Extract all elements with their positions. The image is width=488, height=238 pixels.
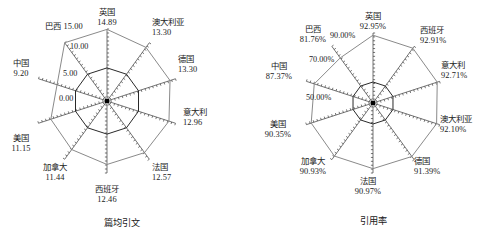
axis-tick-mark: [332, 114, 333, 116]
axis-tick-mark: [69, 87, 70, 89]
axis-tick-mark: [376, 109, 378, 110]
axis-tick-mark: [80, 108, 81, 110]
axis-tick-mark: [134, 140, 136, 141]
axis-tick-mark: [391, 109, 392, 111]
axis-tick-mark: [354, 107, 355, 109]
axis-tick-mark: [336, 89, 337, 91]
axis-tick-mark: [353, 127, 355, 128]
axis-tick-mark: [387, 125, 389, 126]
axis-tick-mark: [324, 117, 325, 119]
axis-tick-mark: [117, 117, 119, 118]
chart-caption-left: 篇均引文: [77, 215, 167, 229]
axis-tick-mark: [129, 133, 131, 134]
axis-tick-mark: [96, 113, 98, 114]
axis-tick-mark: [119, 120, 121, 121]
axis-tick-mark: [408, 153, 410, 154]
axis-tick-mark: [342, 143, 344, 144]
radar-axis-label-value: 92.71%: [441, 71, 467, 81]
axis-tick-mark: [351, 130, 353, 131]
axis-tick-mark: [390, 128, 392, 129]
axis-tick-mark: [432, 122, 433, 124]
axis-tick-mark: [389, 81, 391, 82]
axis-tick-mark: [84, 106, 85, 108]
radar-axis-label-value: 92.10%: [440, 125, 472, 135]
axis-tick-mark: [38, 121, 39, 123]
axis-tick-mark: [414, 90, 415, 92]
axis-tick-mark: [171, 122, 172, 124]
axis-tick-mark: [144, 113, 145, 115]
axis-tick-mark: [91, 77, 93, 78]
axis-tick-mark: [388, 98, 389, 100]
axis-tick-mark: [82, 132, 84, 133]
radar-axis-label: 意大利92.71%: [441, 61, 467, 80]
axis-tick-mark: [131, 69, 133, 70]
axis-tick-mark: [380, 101, 381, 103]
radar-axis-label-name: 西班牙: [420, 26, 446, 36]
radar-axis-label: 西班牙12.46: [67, 185, 147, 204]
axis-tick-mark: [84, 129, 86, 130]
axis-tick-mark: [109, 98, 111, 99]
axis-tick-mark: [367, 108, 369, 109]
axis-tick-mark: [383, 107, 384, 109]
axis-tick-mark: [149, 87, 150, 89]
radar-axis-label-value: 15.00: [64, 22, 83, 31]
axis-tick-mark: [99, 101, 100, 103]
axis-tick-mark: [396, 138, 398, 139]
axis-tick-mark: [145, 49, 147, 50]
axis-tick-mark: [321, 84, 322, 86]
radar-axis-label-name: 美国: [238, 120, 318, 130]
radar-axis-spoke: [373, 103, 440, 125]
radar-center-marker: [105, 99, 109, 103]
axis-tick-mark: [156, 85, 157, 87]
axis-tick-mark: [392, 131, 394, 132]
axis-tick-mark: [380, 94, 382, 95]
axis-tick-mark: [405, 59, 407, 60]
axis-tick-mark: [122, 106, 123, 108]
radial-tick-label: 70.00%: [309, 55, 334, 64]
axis-tick-mark: [355, 77, 357, 78]
axis-tick-mark: [112, 95, 114, 96]
axis-tick-mark: [374, 106, 376, 107]
radar-axis-label-value: 90.93%: [273, 167, 353, 177]
axis-tick-mark: [325, 85, 326, 87]
radial-tick-label: 50.00%: [306, 93, 331, 102]
axis-tick-mark: [428, 85, 429, 87]
axis-tick-mark: [110, 107, 112, 108]
axis-tick-mark: [115, 114, 117, 115]
radar-chart-citation-rate: 英国92.95%西班牙92.91%意大利92.71%澳大利亚92.10%德国91…: [244, 0, 488, 238]
axis-tick-mark: [414, 46, 416, 47]
radar-axis-label-value: 87.37%: [239, 72, 319, 82]
axis-tick-mark: [391, 78, 393, 79]
axis-tick-mark: [72, 51, 74, 52]
axis-tick-mark: [376, 104, 377, 106]
axis-tick-mark: [172, 80, 173, 82]
radar-axis-label-name: 德国: [178, 55, 197, 65]
axis-tick-mark: [371, 99, 373, 100]
axis-tick-mark: [126, 95, 127, 97]
radar-axis-label: 澳大利亚13.30: [152, 18, 184, 37]
radar-axis-label-value: 12.46: [67, 195, 147, 205]
axis-tick-mark: [156, 117, 157, 119]
axis-tick-mark: [318, 83, 319, 85]
axis-tick-mark: [95, 103, 96, 105]
axis-tick-mark: [341, 58, 343, 59]
axis-tick-mark: [346, 109, 347, 111]
axis-tick-mark: [131, 137, 133, 138]
radar-axis-label: 巴西 15.00: [24, 22, 104, 32]
axis-tick-mark: [428, 121, 429, 123]
axis-tick-mark: [125, 107, 126, 109]
axis-tick-mark: [420, 119, 421, 121]
axis-tick-mark: [339, 146, 341, 147]
axis-tick-mark: [355, 95, 356, 97]
axis-tick-mark: [83, 67, 85, 68]
axis-tick-mark: [358, 121, 360, 122]
axis-tick-mark: [122, 124, 124, 125]
axis-tick-mark: [133, 65, 135, 66]
radar-axis-spoke: [107, 101, 149, 159]
axis-tick-mark: [377, 102, 378, 104]
axis-tick-mark: [130, 94, 131, 96]
radar-axis-label-name: 澳大利亚: [152, 18, 184, 28]
axis-tick-mark: [391, 97, 392, 99]
radar-axis-label: 澳大利亚92.10%: [440, 115, 472, 134]
radar-axis-label-value: 11.15: [0, 144, 61, 154]
